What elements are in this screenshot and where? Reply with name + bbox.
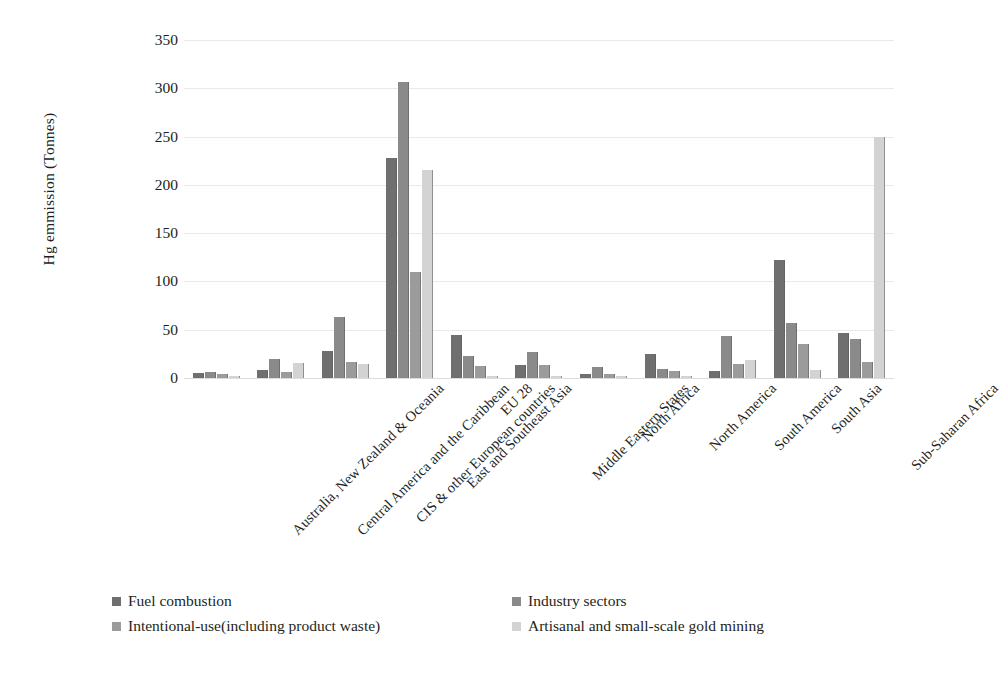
bar: [515, 365, 526, 378]
bar: [580, 374, 591, 378]
bar-group: [184, 40, 249, 378]
bar-group: [765, 40, 830, 378]
y-tick-label: 50: [126, 322, 178, 338]
bar: [422, 170, 433, 378]
bar-group: [571, 40, 636, 378]
bar: [745, 360, 756, 378]
y-tick-label: 250: [126, 129, 178, 145]
bar-group: [378, 40, 443, 378]
bar-group: [507, 40, 572, 378]
bar: [463, 356, 474, 378]
bar: [398, 82, 409, 378]
y-tick-label: 0: [126, 370, 178, 386]
bar: [669, 371, 680, 378]
bar: [616, 376, 627, 378]
bar: [850, 339, 861, 378]
bar: [681, 376, 692, 378]
chart-legend: Fuel combustionIndustry sectorsIntention…: [112, 588, 872, 638]
legend-label: Intentional-use(including product waste): [128, 617, 380, 635]
y-tick-label: 100: [126, 274, 178, 290]
bar: [733, 364, 744, 378]
bar-group: [829, 40, 894, 378]
bar: [193, 373, 204, 378]
bar: [539, 365, 550, 378]
plot-area: [184, 40, 894, 378]
bar: [334, 317, 345, 378]
y-axis-title: Hg emmission (Tonnes): [40, 84, 58, 294]
bar: [217, 374, 228, 378]
bar: [657, 369, 668, 378]
bar: [645, 354, 656, 378]
bar: [838, 333, 849, 378]
x-tick-label: North America: [706, 380, 780, 454]
bar-group: [249, 40, 314, 378]
bar: [205, 372, 216, 378]
y-tick-label: 150: [126, 225, 178, 241]
bar: [451, 335, 462, 378]
bar: [527, 352, 538, 378]
legend-item[interactable]: Artisanal and small-scale gold mining: [512, 617, 872, 635]
bar: [386, 158, 397, 378]
y-tick-label: 300: [126, 81, 178, 97]
bar: [229, 376, 240, 378]
legend-label: Industry sectors: [528, 592, 627, 610]
x-tick-label: Sub-Saharan Africa: [908, 380, 1002, 474]
x-tick-label: South America: [770, 380, 844, 454]
bar: [592, 367, 603, 378]
bar: [358, 364, 369, 378]
legend-swatch-icon: [512, 622, 521, 631]
bar: [551, 376, 562, 378]
gridline: [184, 378, 894, 379]
legend-item[interactable]: Intentional-use(including product waste): [112, 617, 512, 635]
bar: [293, 363, 304, 378]
bar: [874, 137, 885, 378]
bar-group: [313, 40, 378, 378]
bar: [257, 370, 268, 378]
bar: [322, 351, 333, 378]
bar-group: [700, 40, 765, 378]
legend-swatch-icon: [112, 622, 121, 631]
bar: [798, 344, 809, 378]
legend-label: Artisanal and small-scale gold mining: [528, 617, 764, 635]
bar: [604, 374, 615, 378]
x-axis-category-labels: Australia, New Zealand & OceaniaCentral …: [184, 380, 894, 570]
legend-item[interactable]: Fuel combustion: [112, 592, 512, 610]
bar: [862, 362, 873, 378]
legend-item[interactable]: Industry sectors: [512, 592, 872, 610]
bar: [709, 371, 720, 378]
y-axis-tick-labels: 050100150200250300350: [126, 40, 178, 378]
bar: [721, 336, 732, 378]
bar: [346, 362, 357, 378]
bar-group: [442, 40, 507, 378]
legend-swatch-icon: [112, 597, 121, 606]
bar: [786, 323, 797, 378]
bar: [774, 260, 785, 378]
legend-label: Fuel combustion: [128, 592, 232, 610]
bar: [410, 272, 421, 378]
legend-swatch-icon: [512, 597, 521, 606]
y-tick-label: 350: [126, 32, 178, 48]
y-tick-label: 200: [126, 177, 178, 193]
bar: [810, 370, 821, 378]
bar-group: [636, 40, 701, 378]
bar: [269, 359, 280, 378]
bar: [487, 376, 498, 378]
bar: [475, 366, 486, 378]
bar-groups: [184, 40, 894, 378]
bar: [281, 372, 292, 378]
